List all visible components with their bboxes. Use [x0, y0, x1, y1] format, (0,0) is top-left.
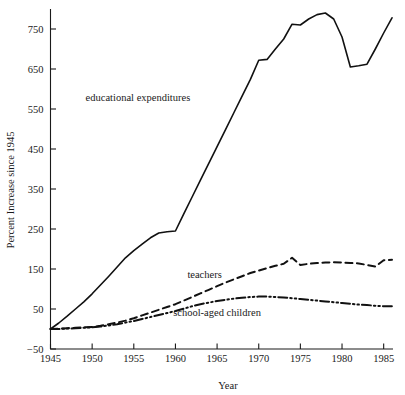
x-tick-label: 1975 — [290, 353, 311, 364]
x-tick-label: 1960 — [165, 353, 186, 364]
x-tick-label: 1955 — [123, 353, 144, 364]
y-axis-tick-labels: 75065055045035025015050−50 — [27, 24, 43, 355]
y-tick-label: 450 — [28, 144, 44, 155]
axis-frame — [51, 9, 394, 349]
axes-group — [51, 9, 394, 349]
y-tick-label: 50 — [33, 304, 44, 315]
series-label-school-aged-children: school-aged children — [173, 307, 262, 318]
series-label-teachers: teachers — [187, 269, 221, 280]
x-tick-label: 1980 — [332, 353, 353, 364]
x-axis-tick-labels: 194519501955196019651970197519801985 — [40, 353, 394, 364]
y-tick-label: 150 — [28, 264, 44, 275]
y-tick-label: 650 — [28, 64, 44, 75]
x-tick-label: 1985 — [373, 353, 394, 364]
series-inline-labels: educational expendituresteachersschool-a… — [86, 92, 262, 318]
x-tick-label: 1970 — [248, 353, 269, 364]
chart-container: 75065055045035025015050−50 1945195019551… — [0, 0, 405, 395]
y-tick-label: 250 — [28, 224, 44, 235]
y-axis-title: Percent Increase since 1945 — [5, 132, 16, 249]
x-axis-title: Year — [218, 380, 238, 391]
y-tick-label: 350 — [28, 184, 44, 195]
y-tick-label: 550 — [28, 104, 44, 115]
series-line-educational-expenditures — [51, 13, 393, 329]
series-label-educational-expenditures: educational expenditures — [86, 92, 191, 103]
x-tick-label: 1950 — [82, 353, 103, 364]
x-tick-label: 1965 — [207, 353, 228, 364]
line-chart-svg: 75065055045035025015050−50 1945195019551… — [0, 0, 405, 395]
x-tick-label: 1945 — [40, 353, 61, 364]
y-tick-label: 750 — [28, 24, 44, 35]
data-series-group — [51, 13, 393, 329]
